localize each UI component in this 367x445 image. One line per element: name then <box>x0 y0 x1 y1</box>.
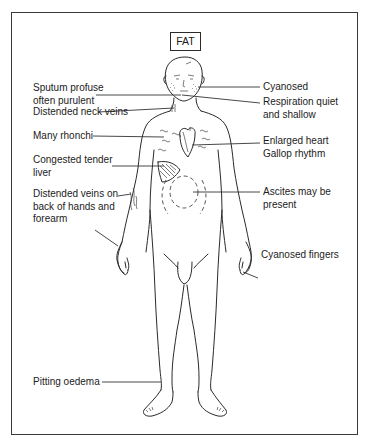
label-cyanosed: Cyanosed <box>263 81 308 94</box>
head <box>164 57 205 101</box>
label-distended-hand-veins: Distended veins on back of hands and for… <box>33 188 118 226</box>
label-cyanosed-fingers: Cyanosed fingers <box>261 249 339 262</box>
leader-lines <box>93 87 260 382</box>
label-distended-neck-veins: Distended neck veins <box>33 106 128 119</box>
label-enlarged-heart: Enlarged heart Gallop rhythm <box>263 135 329 160</box>
label-sputum-profuse: Sputum profuse often purulent <box>33 82 104 107</box>
label-pitting-oedema: Pitting oedema <box>33 376 100 389</box>
label-many-rhonchi: Many rhonchi <box>33 130 93 143</box>
label-respiration: Respiration quiet and shallow <box>263 96 338 121</box>
label-ascites: Ascites may be present <box>263 186 331 211</box>
label-congested-liver: Congested tender liver <box>33 154 113 179</box>
